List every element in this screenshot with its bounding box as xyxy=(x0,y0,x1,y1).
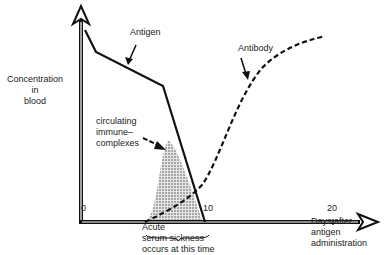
antigen-label: Antigen xyxy=(130,27,161,38)
x-axis-label: Days after antigen administration xyxy=(311,216,367,249)
y-axis-label: Concentration in blood xyxy=(4,74,66,107)
antibody-label: Antibody xyxy=(238,43,273,54)
immune-complex-area xyxy=(145,140,203,222)
complex-pointer xyxy=(143,138,166,150)
antibody-pointer xyxy=(241,58,250,80)
immune-complex-label: circulating immune– complexes xyxy=(96,116,139,149)
serum-sickness-label: Acute serum sickness occurs at this time xyxy=(142,222,215,255)
antigen-pointer xyxy=(125,45,136,65)
x-tick-20: 20 xyxy=(327,203,337,214)
y-axis xyxy=(73,6,89,222)
x-tick-10: 10 xyxy=(203,203,213,214)
x-tick-0: 0 xyxy=(81,203,86,214)
